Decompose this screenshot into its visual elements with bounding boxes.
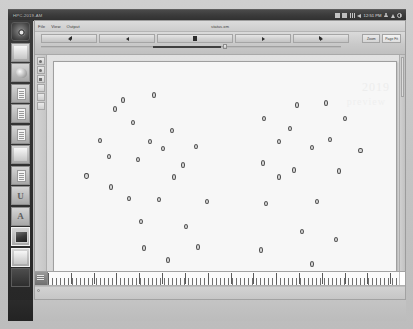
grid-icon[interactable] bbox=[335, 13, 340, 18]
timeline-panel bbox=[34, 271, 406, 300]
scatter-marker bbox=[109, 184, 113, 189]
battery-icon[interactable] bbox=[342, 13, 347, 18]
dock-item-blank-2[interactable] bbox=[11, 145, 30, 164]
dock-item-photo[interactable] bbox=[11, 227, 30, 246]
rewind-button[interactable] bbox=[41, 34, 97, 43]
timeline-major-tick bbox=[116, 273, 117, 284]
timeline-major-tick bbox=[299, 273, 300, 284]
stop-button[interactable] bbox=[157, 34, 233, 43]
tool-crop[interactable] bbox=[37, 102, 45, 110]
scrubber-thumb[interactable] bbox=[223, 44, 227, 49]
vertical-scrollbar-thumb[interactable] bbox=[401, 57, 405, 97]
dock-item-document-3[interactable] bbox=[11, 125, 30, 144]
scatter-marker bbox=[98, 138, 102, 143]
scatter-marker bbox=[107, 154, 111, 159]
tool-rect[interactable] bbox=[37, 84, 45, 92]
timeline-major-tick bbox=[231, 273, 232, 284]
dock-item-letter-u[interactable]: U bbox=[11, 186, 30, 205]
rewind-icon bbox=[68, 37, 71, 41]
document-label: status.xm bbox=[211, 24, 229, 29]
panel-icon bbox=[14, 148, 27, 161]
watermark-line-1: 2019 bbox=[362, 80, 390, 95]
menu-item-view[interactable]: View bbox=[48, 24, 63, 29]
blob-icon bbox=[16, 68, 27, 78]
dock-item-blank-1[interactable] bbox=[11, 43, 30, 62]
next-button[interactable] bbox=[235, 34, 291, 43]
clock-label: 12:51 PM bbox=[364, 13, 382, 18]
timeline-major-tick bbox=[276, 273, 277, 284]
status-bar bbox=[33, 300, 406, 321]
dock-item-terminal[interactable] bbox=[11, 268, 30, 287]
dock-item-text-editor[interactable] bbox=[11, 166, 30, 185]
system-tray: 12:51 PM bbox=[335, 13, 406, 18]
scatter-marker bbox=[277, 139, 281, 144]
scatter-marker bbox=[194, 144, 198, 149]
timeline-major-tick bbox=[71, 273, 72, 284]
scatter-marker bbox=[300, 229, 304, 234]
scatter-marker bbox=[337, 168, 341, 173]
page-fit-button[interactable]: Page Fit bbox=[382, 34, 401, 43]
timeline-major-tick bbox=[390, 273, 391, 284]
photo-icon bbox=[15, 231, 28, 243]
scatter-marker bbox=[84, 173, 88, 178]
document-page[interactable]: 2019 preview bbox=[53, 61, 397, 293]
text-icon bbox=[17, 170, 26, 182]
vertical-scrollbar[interactable] bbox=[399, 55, 405, 299]
panel-icon bbox=[14, 46, 27, 59]
scatter-marker bbox=[172, 174, 176, 179]
timeline-major-tick bbox=[48, 273, 49, 284]
tool-zoom[interactable] bbox=[37, 66, 45, 74]
tool-select[interactable] bbox=[37, 57, 45, 65]
timeline-track[interactable] bbox=[35, 286, 405, 299]
gradient-icon bbox=[14, 251, 27, 264]
canvas-container: 2019 preview bbox=[47, 55, 405, 299]
scatter-marker bbox=[196, 244, 200, 249]
scatter-marker bbox=[310, 145, 314, 150]
document-icon bbox=[17, 129, 26, 141]
timeline-head-icon[interactable] bbox=[35, 272, 48, 285]
signal-bars-icon[interactable] bbox=[350, 13, 355, 18]
previous-button[interactable] bbox=[99, 34, 155, 43]
dock-footer bbox=[8, 300, 33, 321]
tool-marker[interactable] bbox=[37, 75, 45, 83]
letter-a-icon: A bbox=[12, 208, 29, 225]
next-icon bbox=[262, 37, 265, 41]
scatter-marker bbox=[264, 201, 268, 206]
dock-item-document-1[interactable] bbox=[11, 84, 30, 103]
timeline-major-tick bbox=[367, 273, 368, 284]
timeline-major-tick bbox=[253, 273, 254, 284]
scatter-marker bbox=[181, 162, 185, 167]
dock-item-gradient[interactable] bbox=[11, 248, 30, 267]
power-icon[interactable] bbox=[397, 13, 402, 18]
menu-item-file[interactable]: File bbox=[35, 24, 48, 29]
dock-item-letter-a[interactable]: A bbox=[11, 207, 30, 226]
timeline-major-tick bbox=[322, 273, 323, 284]
fast-forward-button[interactable] bbox=[293, 34, 349, 43]
workspace: 2019 preview bbox=[35, 55, 405, 299]
dock-item-media[interactable] bbox=[11, 63, 30, 82]
scatter-marker bbox=[328, 137, 332, 142]
network-icon[interactable] bbox=[391, 14, 395, 18]
scatter-marker bbox=[142, 245, 146, 250]
timeline-ticks[interactable] bbox=[48, 272, 399, 285]
scatter-marker bbox=[136, 157, 140, 162]
user-icon[interactable] bbox=[384, 13, 388, 18]
tool-palette bbox=[35, 55, 47, 299]
timeline-end-marker bbox=[399, 272, 405, 285]
playback-scrubber[interactable] bbox=[41, 45, 341, 49]
dock-item-system-settings[interactable] bbox=[11, 22, 30, 41]
scatter-marker bbox=[324, 100, 328, 105]
volume-icon[interactable] bbox=[357, 14, 361, 18]
menu-item-output[interactable]: Output bbox=[64, 24, 83, 29]
timeline-major-tick bbox=[94, 273, 95, 284]
fast-forward-icon bbox=[320, 37, 323, 41]
scatter-marker bbox=[157, 197, 161, 202]
scatter-marker bbox=[292, 167, 296, 172]
zoom-button[interactable]: Zoom bbox=[362, 34, 380, 43]
timeline-ruler[interactable] bbox=[35, 272, 405, 286]
stop-icon bbox=[193, 36, 197, 41]
document-icon bbox=[17, 88, 26, 100]
tool-hand[interactable] bbox=[37, 93, 45, 101]
dock-item-document-2[interactable] bbox=[11, 104, 30, 123]
scatter-marker bbox=[166, 257, 170, 262]
